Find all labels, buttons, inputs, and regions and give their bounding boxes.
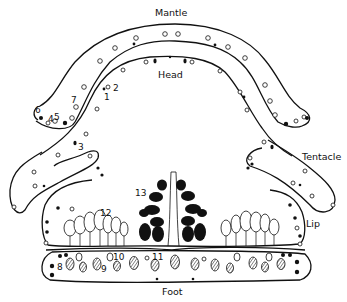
dark-cell-lobes: [139, 180, 207, 243]
mantle-inner-outline: [36, 41, 302, 129]
cell-label-6: 6: [35, 105, 41, 115]
cell-cluster-12-right: [221, 211, 279, 236]
cell-label-7: 7: [71, 95, 77, 105]
label-head: Head: [158, 69, 183, 80]
cell-cluster-12-left: [64, 210, 128, 236]
lip-outline: [42, 180, 305, 246]
cell-label-3: 3: [78, 142, 84, 152]
anatomical-diagram: Mantle Head Tentacle Lip Foot 1 2 3 4 5 …: [0, 0, 347, 302]
foot-top-outline: [46, 247, 305, 250]
tentacle-dark-cells: [43, 162, 302, 187]
tentacle-cells: [12, 153, 335, 209]
cell-label-5: 5: [54, 112, 60, 122]
label-tentacle: Tentacle: [301, 151, 341, 162]
cell-label-2: 2: [113, 83, 119, 93]
foot-hatched-cells: [66, 255, 285, 273]
left-tentacle: [10, 151, 98, 213]
left-tentacle-outline: [10, 151, 98, 213]
cluster-stalks: [70, 230, 274, 246]
label-mantle: Mantle: [155, 7, 187, 18]
cell-label-10: 10: [113, 252, 125, 262]
cell-cluster-13: [139, 172, 207, 246]
cell-label-13: 13: [135, 188, 146, 198]
cell-label-8: 8: [57, 262, 63, 272]
cell-label-11: 11: [152, 252, 163, 262]
cell-label-1: 1: [104, 92, 110, 102]
label-foot: Foot: [162, 286, 183, 297]
label-lip: Lip: [306, 218, 320, 229]
cell-label-12: 12: [100, 208, 111, 218]
cell-label-9: 9: [101, 264, 107, 274]
